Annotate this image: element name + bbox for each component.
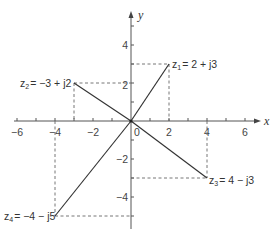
point-label-z2: z2= −3 + j2 [20,77,71,90]
phasor-z1 [131,64,169,121]
point-label-z4: z4= −4 − j5 [4,210,55,223]
y-tick-label: 4 [122,39,128,51]
x-tick-label: 2 [166,126,172,138]
x-tick-label: −6 [11,126,23,138]
x-axis-label: x [263,114,270,128]
y-axis-label: y [137,8,144,22]
origin-dot [129,119,132,122]
point-label-z1: z1= 2 + j3 [172,58,217,71]
y-tick-label: −4 [116,191,128,203]
argand-diagram: x y −6 −4 −2 2 4 6 0 4 2 −2 − [0,0,272,232]
point-label-z3: z3= 4 − j3 [209,174,254,187]
y-tick-label: 2 [122,79,128,91]
x-tick-label: 6 [242,126,248,138]
y-tick-label: −2 [116,153,128,165]
y-axis-arrow-icon [129,11,134,18]
x-tick-label: −2 [87,126,99,138]
x-axis-arrow-icon [254,119,261,124]
